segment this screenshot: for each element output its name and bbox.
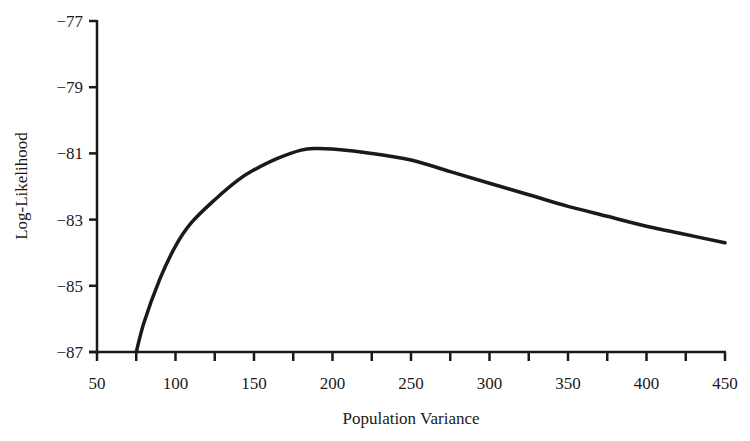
x-tick-label: 450 — [712, 374, 738, 393]
y-tick-label: −85 — [56, 277, 83, 296]
x-tick-label: 50 — [89, 374, 106, 393]
x-tick-label: 150 — [241, 374, 267, 393]
y-tick-label: −83 — [56, 211, 83, 230]
x-tick-label: 400 — [634, 374, 660, 393]
y-tick-label: −77 — [56, 12, 83, 31]
x-tick-label: 100 — [163, 374, 189, 393]
likelihood-curve — [136, 148, 725, 352]
y-tick-label: −87 — [56, 343, 83, 362]
x-tick-label: 300 — [477, 374, 503, 393]
x-tick-label: 250 — [398, 374, 424, 393]
y-tick-label: −81 — [56, 144, 83, 163]
log-likelihood-chart: −87−85−83−81−79−77 501001502002503003504… — [0, 0, 750, 441]
y-axis-ticks: −87−85−83−81−79−77 — [56, 12, 97, 362]
x-tick-label: 350 — [555, 374, 581, 393]
y-axis-title: Log-Likelihood — [12, 132, 31, 240]
y-tick-label: −79 — [56, 78, 83, 97]
x-axis-title: Population Variance — [342, 409, 479, 428]
axes — [89, 20, 726, 354]
x-tick-label: 200 — [320, 374, 346, 393]
x-axis-ticks: 50100150200250300350400450 — [89, 352, 738, 393]
